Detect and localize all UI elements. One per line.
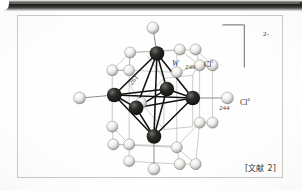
figure-frame: W 249 Cli 261 244 Cla 2- [文献 2] <box>17 15 283 178</box>
tungsten-atom <box>160 82 175 97</box>
scanner-edge-artifact <box>0 0 302 11</box>
label-chlorine-apical: Cla <box>240 97 250 107</box>
chlorine-atom <box>190 159 201 170</box>
label-distance-w-cl-apical: 244 <box>219 105 230 112</box>
chlorine-atom <box>194 117 205 128</box>
chlorine-atom <box>74 92 86 104</box>
tungsten-atom <box>129 101 144 116</box>
label-chlorine-apical-superscript: a <box>248 96 250 102</box>
chlorine-atom <box>108 139 119 150</box>
chlorine-atom <box>207 117 218 128</box>
tungsten-atom <box>185 91 200 106</box>
label-chlorine-inner-superscript: i <box>212 58 213 64</box>
label-cluster-charge: 2- <box>263 31 269 38</box>
chlorine-atom <box>171 142 182 153</box>
tungsten-atom <box>150 46 165 61</box>
chlorine-atom <box>171 67 182 78</box>
label-chlorine-inner: Cli <box>204 59 213 69</box>
figure-citation-reference: [文献 2] <box>245 162 276 173</box>
label-tungsten: W <box>172 60 179 68</box>
chlorine-atom <box>107 65 118 76</box>
tungsten-atom <box>107 88 122 103</box>
chlorine-atom <box>124 156 135 167</box>
label-chlorine-inner-text: Cl <box>204 60 212 69</box>
chlorine-atom <box>148 163 160 175</box>
chlorine-atom <box>221 92 233 104</box>
chlorine-atom <box>174 44 185 55</box>
tungsten-atom <box>147 129 162 144</box>
chlorine-atom <box>174 159 185 170</box>
chlorine-atom <box>124 139 135 150</box>
chlorine-atom <box>125 47 136 58</box>
charge-bracket <box>222 25 244 67</box>
chlorine-atom <box>147 22 159 34</box>
label-chlorine-apical-text: Cl <box>240 98 248 107</box>
label-distance-w-cl-inner: 249 <box>185 64 196 71</box>
chlorine-atom <box>190 44 201 55</box>
chlorine-atom <box>107 121 118 132</box>
